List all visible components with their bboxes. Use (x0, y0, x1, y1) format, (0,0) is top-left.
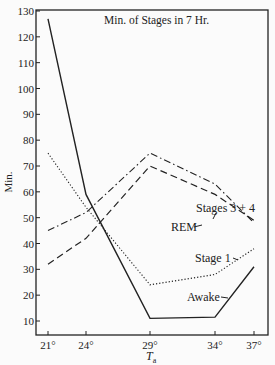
y-tick-label: 10 (23, 315, 35, 327)
y-tick-label: 50 (23, 212, 35, 224)
series-rem (48, 166, 254, 264)
y-tick-label: 40 (23, 238, 35, 250)
series-awake (48, 19, 254, 319)
x-axis: 21°24°29°34°37° (40, 331, 261, 351)
y-axis-label: Min. (2, 171, 14, 192)
y-tick-label: 60 (23, 186, 35, 198)
series-lines (48, 19, 254, 319)
y-tick-label: 80 (23, 134, 35, 146)
chart-title: Min. of Stages in 7 Hr. (104, 14, 209, 27)
series-label-stage-1: Stage 1 (195, 251, 231, 265)
plot-frame (36, 10, 268, 335)
y-tick-label: 120 (18, 31, 35, 43)
line-chart: 102030405060708090100110120130 21°24°29°… (0, 0, 275, 365)
x-tick-label: 21° (40, 339, 55, 351)
x-tick-label: 34° (207, 339, 222, 351)
y-tick-label: 20 (23, 289, 35, 301)
y-tick-label: 110 (18, 57, 35, 69)
x-axis-label: Ta (146, 349, 157, 365)
x-tick-label: 24° (78, 339, 93, 351)
series-label-rem: REM (171, 220, 197, 234)
y-tick-label: 130 (18, 5, 35, 17)
y-tick-label: 90 (23, 108, 35, 120)
y-tick-label: 70 (23, 160, 35, 172)
y-tick-label: 100 (18, 83, 35, 95)
series-label-awake: Awake (187, 290, 220, 304)
series-stage-1 (48, 153, 254, 285)
x-tick-label: 37° (246, 339, 261, 351)
y-tick-label: 30 (23, 263, 35, 275)
series-label-stages-3-4: Stages 3 + 4 (196, 201, 255, 215)
